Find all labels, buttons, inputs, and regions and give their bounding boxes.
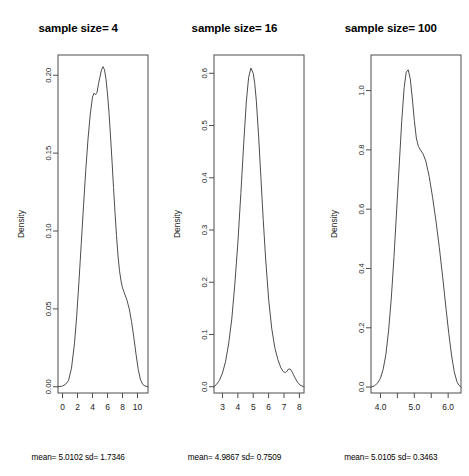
x-tick-label: 3 (220, 402, 225, 412)
y-tick-label: 0.4 (357, 263, 366, 274)
density-curve (371, 70, 461, 387)
plot-box (214, 55, 304, 393)
y-tick-label: 0.6 (357, 204, 366, 215)
panel-title: sample size= 16 (156, 22, 312, 34)
y-tick-label: 0.2 (200, 277, 209, 288)
x-tick-label: 6 (267, 402, 272, 412)
x-tick-label: 10 (133, 402, 143, 412)
y-axis-title: Density (16, 209, 26, 238)
y-tick-label: 0.00 (44, 379, 53, 394)
y-axis-title: Density (172, 209, 182, 238)
y-tick-label: 0.10 (44, 224, 53, 239)
y-tick-label: 0.1 (200, 329, 209, 340)
y-tick-label: 0.15 (44, 146, 53, 161)
x-tick-label: 6.0 (442, 402, 454, 412)
plot-area: 0.00.10.20.30.40.50.6345678Density (156, 45, 312, 435)
density-plot-figure: sample size= 40.000.050.100.150.20024681… (0, 0, 469, 476)
panel-caption: mean= 5.0102 sd= 1.7346 (0, 453, 156, 462)
x-tick-label: 0 (60, 402, 65, 412)
density-curve-svg: 0.00.10.20.30.40.50.6345678Density (156, 45, 312, 435)
x-tick-label: 7 (282, 402, 287, 412)
y-axis-title: Density (329, 209, 339, 238)
density-curve (214, 68, 304, 387)
y-tick-label: 0.4 (200, 172, 209, 183)
y-tick-label: 0.3 (200, 225, 209, 236)
panel-title: sample size= 100 (313, 22, 469, 34)
x-tick-label: 8 (297, 402, 302, 412)
plot-box (371, 55, 461, 393)
x-tick-label: 4 (236, 402, 241, 412)
x-tick-label: 5.0 (408, 402, 420, 412)
x-tick-label: 4 (90, 402, 95, 412)
x-tick-label: 4.0 (374, 402, 386, 412)
panel-caption: mean= 5.0105 sd= 0.3463 (313, 453, 469, 462)
density-curve-svg: 0.00.20.40.60.81.04.05.06.0Density (313, 45, 469, 435)
y-tick-label: 0.2 (357, 322, 366, 333)
density-panel-1: sample size= 40.000.050.100.150.20024681… (0, 0, 156, 476)
plot-area: 0.00.20.40.60.81.04.05.06.0Density (313, 45, 469, 435)
density-panel-3: sample size= 1000.00.20.40.60.81.04.05.0… (313, 0, 469, 476)
density-curve (58, 67, 148, 387)
y-tick-label: 0.0 (200, 381, 209, 392)
y-tick-label: 0.05 (44, 301, 53, 316)
plot-area: 0.000.050.100.150.200246810Density (0, 45, 156, 435)
panel-title: sample size= 4 (0, 22, 156, 34)
x-tick-label: 5 (251, 402, 256, 412)
x-tick-label: 8 (120, 402, 125, 412)
density-curve-svg: 0.000.050.100.150.200246810Density (0, 45, 156, 435)
y-tick-label: 0.20 (44, 68, 53, 83)
y-tick-label: 1.0 (357, 85, 366, 96)
y-tick-label: 0.6 (200, 68, 209, 79)
y-tick-label: 0.8 (357, 145, 366, 156)
y-tick-label: 0.0 (357, 382, 366, 393)
x-tick-label: 6 (105, 402, 110, 412)
density-panel-2: sample size= 160.00.10.20.30.40.50.63456… (156, 0, 312, 476)
x-tick-label: 2 (75, 402, 80, 412)
panel-caption: mean= 4.9867 sd= 0.7509 (156, 453, 312, 462)
y-tick-label: 0.5 (200, 120, 209, 131)
